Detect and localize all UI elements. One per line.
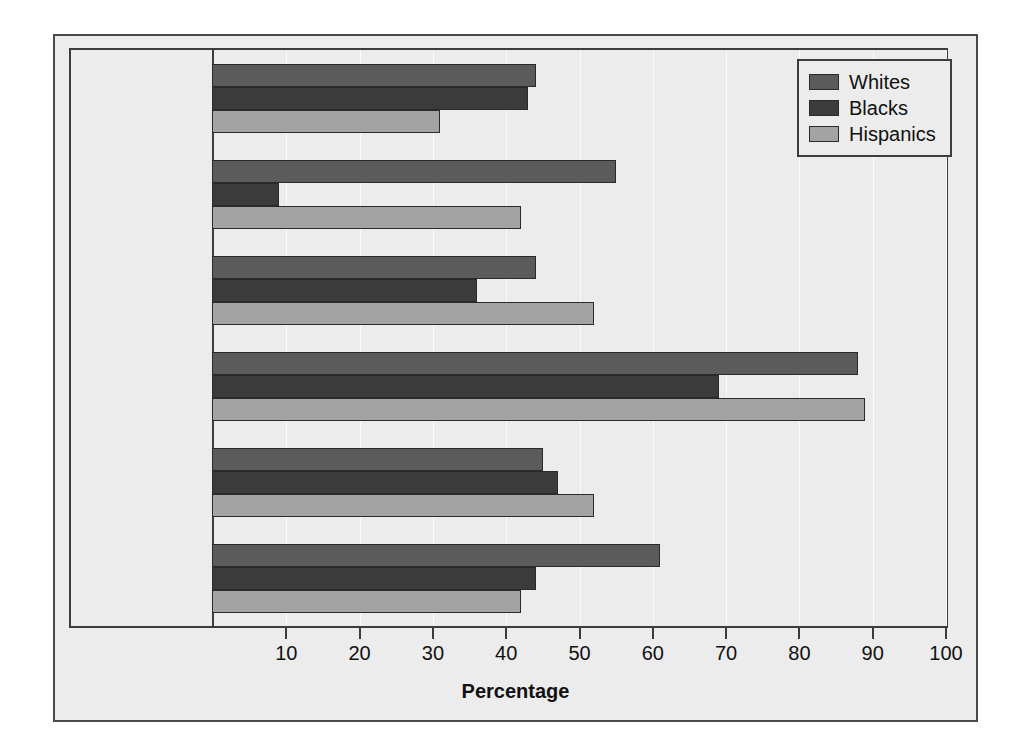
- legend-item-whites[interactable]: Whites: [809, 69, 936, 95]
- bar-blacks-0[interactable]: [212, 87, 528, 110]
- x-axis-title: Percentage: [53, 680, 978, 703]
- bar-group: [71, 256, 946, 325]
- tick-mark: [432, 628, 434, 639]
- bar-whites-5[interactable]: [212, 544, 660, 567]
- bar-blacks-5[interactable]: [212, 567, 536, 590]
- tick-mark: [798, 628, 800, 639]
- legend-swatch-icon: [809, 126, 839, 142]
- chart-figure: Think abortion generally acceptableVoted…: [0, 0, 1028, 744]
- tick-label: 40: [495, 642, 517, 665]
- tick-mark: [579, 628, 581, 639]
- value-axis-line: [212, 50, 214, 626]
- chart-legend: WhitesBlacksHispanics: [797, 59, 952, 157]
- bar-blacks-1[interactable]: [212, 183, 279, 206]
- bar-blacks-4[interactable]: [212, 471, 558, 494]
- tick-label: 30: [422, 642, 444, 665]
- bar-hispanics-0[interactable]: [212, 110, 440, 133]
- legend-item-blacks[interactable]: Blacks: [809, 95, 936, 121]
- bar-group: [71, 352, 946, 421]
- bar-group: [71, 448, 946, 517]
- bar-group: [71, 160, 946, 229]
- tick-mark: [945, 628, 947, 639]
- tick-label: 90: [862, 642, 884, 665]
- gridline: [433, 50, 434, 626]
- bar-whites-2[interactable]: [212, 256, 536, 279]
- bar-whites-3[interactable]: [212, 352, 858, 375]
- legend-label: Hispanics: [849, 123, 936, 146]
- bar-hispanics-1[interactable]: [212, 206, 521, 229]
- bar-blacks-2[interactable]: [212, 279, 477, 302]
- bar-hispanics-5[interactable]: [212, 590, 521, 613]
- gridline: [580, 50, 581, 626]
- gridline: [506, 50, 507, 626]
- bar-blacks-3[interactable]: [212, 375, 719, 398]
- gridline: [286, 50, 287, 626]
- tick-mark: [285, 628, 287, 639]
- tick-label: 20: [348, 642, 370, 665]
- tick-label: 60: [642, 642, 664, 665]
- bar-hispanics-4[interactable]: [212, 494, 594, 517]
- legend-item-hispanics[interactable]: Hispanics: [809, 121, 936, 147]
- tick-label: 50: [568, 642, 590, 665]
- tick-label: 10: [275, 642, 297, 665]
- gridline: [360, 50, 361, 626]
- bar-whites-4[interactable]: [212, 448, 543, 471]
- tick-label: 80: [788, 642, 810, 665]
- tick-mark: [505, 628, 507, 639]
- gridline: [653, 50, 654, 626]
- bar-whites-1[interactable]: [212, 160, 616, 183]
- tick-mark: [359, 628, 361, 639]
- legend-swatch-icon: [809, 74, 839, 90]
- legend-label: Blacks: [849, 97, 908, 120]
- bar-hispanics-2[interactable]: [212, 302, 594, 325]
- tick-label: 100: [929, 642, 962, 665]
- bar-whites-0[interactable]: [212, 64, 536, 87]
- tick-label: 70: [715, 642, 737, 665]
- tick-mark: [872, 628, 874, 639]
- tick-mark: [652, 628, 654, 639]
- legend-swatch-icon: [809, 100, 839, 116]
- legend-label: Whites: [849, 71, 910, 94]
- bar-hispanics-3[interactable]: [212, 398, 865, 421]
- tick-mark: [725, 628, 727, 639]
- bar-group: [71, 544, 946, 613]
- gridline: [726, 50, 727, 626]
- x-axis-ticks: 102030405060708090100: [69, 628, 948, 688]
